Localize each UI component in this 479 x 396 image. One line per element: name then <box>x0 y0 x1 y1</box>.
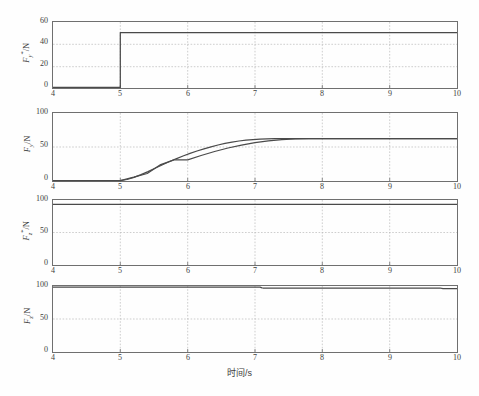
y-tick-4-100: 100 <box>22 280 48 289</box>
x-tick-1-8: 8 <box>312 89 332 98</box>
x-tick-4-5: 5 <box>110 353 130 362</box>
x-tick-1-10: 10 <box>447 89 467 98</box>
x-tick-4-4: 4 <box>43 353 63 362</box>
y-tick-1-40: 40 <box>26 37 48 46</box>
y-tick-4-50: 50 <box>22 313 48 322</box>
x-tick-4-6: 6 <box>178 353 198 362</box>
x-tick-2-7: 7 <box>245 182 265 191</box>
x-tick-1-9: 9 <box>380 89 400 98</box>
x-tick-3-10: 10 <box>447 266 467 275</box>
x-tick-3-5: 5 <box>110 266 130 275</box>
x-tick-2-5: 5 <box>110 182 130 191</box>
x-tick-1-6: 6 <box>178 89 198 98</box>
x-tick-1-4: 4 <box>43 89 63 98</box>
y-axis-label-1: Fy*/N <box>19 21 33 85</box>
x-tick-4-7: 7 <box>245 353 265 362</box>
subplot-2-plot-area <box>0 0 479 396</box>
x-tick-4-10: 10 <box>447 353 467 362</box>
x-tick-3-4: 4 <box>43 266 63 275</box>
x-tick-3-9: 9 <box>380 266 400 275</box>
x-axis-label: 时间/s <box>0 366 479 379</box>
x-tick-2-8: 8 <box>312 182 332 191</box>
y-tick-2-50: 50 <box>22 140 48 149</box>
x-tick-2-4: 4 <box>43 182 63 191</box>
x-tick-2-10: 10 <box>447 182 467 191</box>
x-tick-3-8: 8 <box>312 266 332 275</box>
subplot-3-plot-area <box>0 0 479 396</box>
x-tick-1-5: 5 <box>110 89 130 98</box>
y-tick-1-0: 0 <box>26 80 48 89</box>
y-tick-1-20: 20 <box>26 59 48 68</box>
y-tick-2-0: 0 <box>22 173 48 182</box>
x-tick-3-7: 7 <box>245 266 265 275</box>
x-tick-2-6: 6 <box>178 182 198 191</box>
x-tick-3-6: 6 <box>178 266 198 275</box>
y-tick-1-60: 60 <box>26 16 48 25</box>
y-tick-3-100: 100 <box>22 194 48 203</box>
subplot-1-plot-area <box>0 0 479 396</box>
subplot-4-plot-area <box>0 0 479 396</box>
figure-canvas: Fy*/N 60 40 20 0 4 5 6 <box>0 0 479 396</box>
x-tick-2-9: 9 <box>380 182 400 191</box>
y-tick-3-50: 50 <box>22 226 48 235</box>
x-tick-4-9: 9 <box>380 353 400 362</box>
x-tick-1-7: 7 <box>245 89 265 98</box>
x-tick-4-8: 8 <box>312 353 332 362</box>
y-tick-2-100: 100 <box>22 107 48 116</box>
